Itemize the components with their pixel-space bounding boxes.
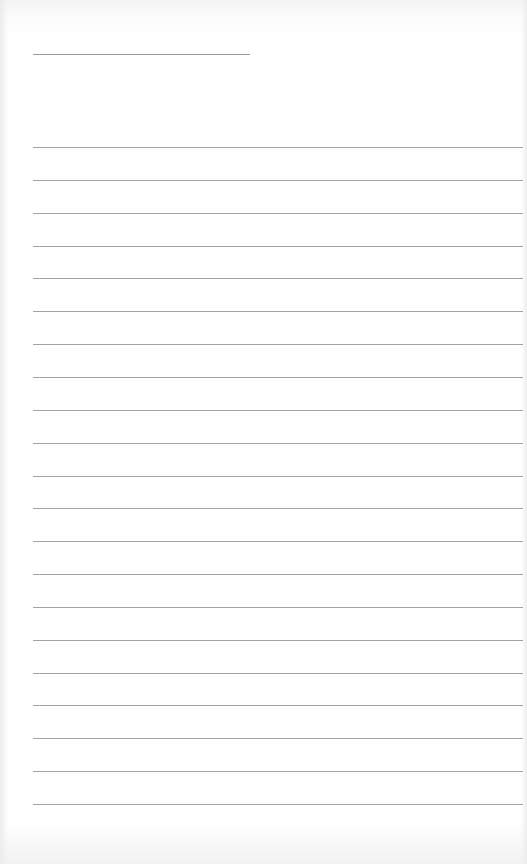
page-edge-shadow-right — [521, 0, 527, 864]
ruled-line — [33, 410, 523, 411]
ruled-line — [33, 476, 523, 477]
ruled-line — [33, 804, 523, 805]
ruled-line — [33, 180, 523, 181]
ruled-line — [33, 574, 523, 575]
ruled-line — [33, 147, 523, 148]
ruled-line — [33, 705, 523, 706]
ruled-line — [33, 640, 523, 641]
ruled-line — [33, 771, 523, 772]
ruled-line — [33, 673, 523, 674]
ruled-line — [33, 443, 523, 444]
ruled-line — [33, 278, 523, 279]
ruled-line — [33, 311, 523, 312]
page-edge-shadow-left — [0, 0, 8, 864]
ruled-line — [33, 508, 523, 509]
lined-paper-page — [0, 0, 527, 864]
ruled-line — [33, 246, 523, 247]
header-name-line — [33, 54, 250, 55]
ruled-line — [33, 377, 523, 378]
ruled-line — [33, 541, 523, 542]
ruled-line — [33, 344, 523, 345]
ruled-line — [33, 607, 523, 608]
ruled-line — [33, 213, 523, 214]
ruled-line — [33, 738, 523, 739]
